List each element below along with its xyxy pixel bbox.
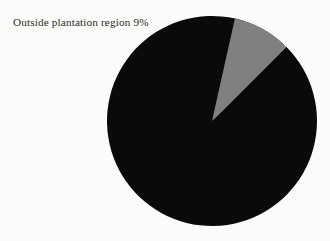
pie-slice-annotation-label: Outside plantation region 9% — [13, 15, 149, 29]
pie-chart-figure: Outside plantation region 9% — [0, 0, 330, 241]
pie-slices — [107, 16, 317, 226]
pie-chart-canvas — [0, 0, 330, 241]
